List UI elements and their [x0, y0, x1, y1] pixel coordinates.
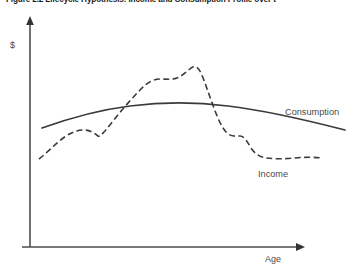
income-series-label: Income — [258, 169, 288, 179]
y-axis-label: $ — [10, 40, 15, 50]
y-axis-arrowhead — [26, 16, 34, 25]
consumption-series-label: Consumption — [285, 107, 339, 117]
income-curve — [39, 67, 322, 159]
lifecycle-chart: $ Age Consumption Income — [0, 0, 356, 279]
chart-svg: $ Age Consumption Income — [0, 0, 356, 279]
x-axis-label: Age — [265, 254, 281, 264]
x-axis-arrowhead — [296, 243, 305, 251]
